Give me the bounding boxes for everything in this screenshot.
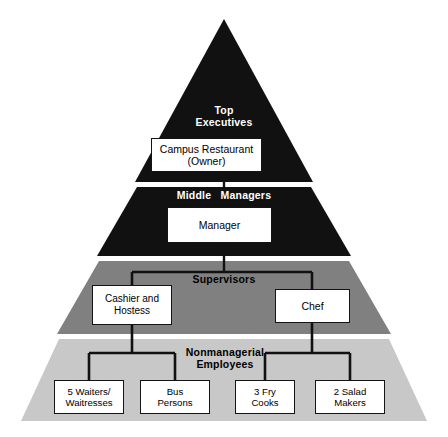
tier-label-middle-managers: Middle Managers	[132, 190, 316, 202]
node-box-waiters: 5 Waiters/ Waitresses	[54, 380, 124, 414]
tier-label-supervisors: Supervisors	[152, 274, 296, 286]
node-box-cashier-and-hostess: Cashier and Hostess	[92, 285, 172, 325]
node-box-bus-persons: Bus Persons	[140, 380, 210, 414]
tier-label-top-executives: Top Executives	[152, 105, 296, 129]
node-box-fry-cooks: 3 Fry Cooks	[235, 380, 295, 414]
node-box-owner: Campus Restaurant (Owner)	[151, 138, 262, 172]
node-box-chef: Chef	[275, 289, 350, 323]
node-box-salad-makers: 2 Salad Makers	[315, 380, 385, 414]
node-box-manager: Manager	[167, 207, 272, 243]
org-pyramid-diagram: Top Executives Middle Managers Superviso…	[0, 0, 448, 437]
tier-label-nonmanagerial-employees: Nonmanagerial Employees	[150, 347, 300, 371]
